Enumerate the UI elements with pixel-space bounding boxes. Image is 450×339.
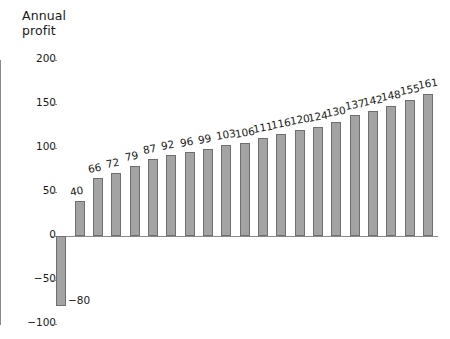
bar bbox=[331, 122, 341, 236]
bar bbox=[405, 100, 415, 236]
bar bbox=[56, 236, 66, 306]
bar-value-label: 99 bbox=[197, 132, 212, 146]
bar bbox=[295, 130, 305, 236]
bar bbox=[203, 149, 213, 236]
bar bbox=[221, 145, 231, 236]
bar-value-label: 87 bbox=[142, 142, 157, 156]
y-tick-label: 0 bbox=[49, 228, 56, 240]
y-tick-label: 200 bbox=[36, 52, 56, 64]
bar bbox=[93, 178, 103, 236]
bar bbox=[386, 106, 396, 236]
bar bbox=[368, 111, 378, 236]
bar bbox=[350, 115, 360, 236]
y-tick-label: 50 bbox=[43, 184, 56, 196]
y-tick-mark bbox=[52, 104, 57, 105]
bar-value-label: 66 bbox=[87, 161, 102, 175]
bar bbox=[185, 152, 195, 236]
bar bbox=[313, 127, 323, 236]
bar-value-label: 148 bbox=[380, 87, 402, 102]
bar bbox=[166, 155, 176, 236]
y-tick-label: −50 bbox=[34, 272, 56, 284]
y-tick-mark bbox=[52, 192, 57, 193]
bar bbox=[111, 173, 121, 236]
y-tick-mark bbox=[52, 60, 57, 61]
bar-value-label: 72 bbox=[105, 155, 120, 169]
y-tick-mark bbox=[52, 324, 57, 325]
bar-value-label: 96 bbox=[179, 134, 194, 148]
bar-value-label: 40 bbox=[69, 184, 84, 198]
y-tick-label: 100 bbox=[36, 140, 56, 152]
bar-value-label: 161 bbox=[417, 76, 439, 91]
y-tick-mark bbox=[52, 148, 57, 149]
bar bbox=[240, 143, 250, 236]
zero-baseline bbox=[51, 236, 438, 237]
chart-title: Annual profit bbox=[22, 8, 66, 38]
bar bbox=[148, 159, 158, 236]
bar bbox=[423, 94, 433, 236]
y-tick-label: −100 bbox=[27, 316, 56, 328]
bar bbox=[258, 138, 268, 236]
bar bbox=[130, 166, 140, 236]
y-axis-line bbox=[0, 60, 1, 325]
bar-chart: Annual profit 200150100500−50−100 −80406… bbox=[0, 0, 450, 339]
bar-value-label: 92 bbox=[160, 138, 175, 152]
bar-value-label: 130 bbox=[325, 103, 347, 118]
bar-value-label: 79 bbox=[124, 149, 139, 163]
bar bbox=[75, 201, 85, 236]
y-tick-label: 150 bbox=[36, 96, 56, 108]
bar bbox=[276, 134, 286, 236]
bar-value-label: −80 bbox=[68, 294, 90, 306]
